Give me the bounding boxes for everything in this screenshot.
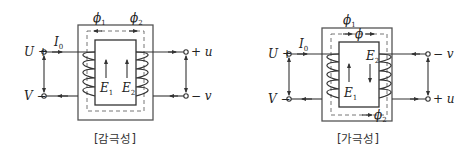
terminal-u-label: + u xyxy=(191,45,213,59)
current-label: I0 xyxy=(53,35,63,51)
terminal-V-label: V − xyxy=(24,89,47,103)
emf2-label: E2 xyxy=(121,81,135,97)
terminal-v xyxy=(426,52,430,56)
terminal-V-label: V − xyxy=(268,92,291,106)
terminal-u xyxy=(184,50,188,54)
primary-winding xyxy=(83,52,95,96)
flux1-label: ϕ1 xyxy=(343,13,356,29)
terminal-u xyxy=(426,97,430,101)
transformer-polarity-diagrams: ϕ1 ϕ2 U + V − I0 + u − v E1 xyxy=(0,0,470,155)
terminal-U-label: U + xyxy=(24,45,48,59)
secondary-winding xyxy=(379,54,391,98)
current-label: I0 xyxy=(298,37,308,53)
subtractive-polarity-diagram: ϕ1 ϕ2 U + V − I0 + u − v E1 xyxy=(24,11,213,146)
terminal-v-label: − v xyxy=(191,89,212,103)
additive-polarity-diagram: ϕ1 ϕ ϕ2 U + V − I0 − v + u xyxy=(268,13,455,146)
flux2-label: ϕ2 xyxy=(374,108,387,124)
terminal-u-label: + u xyxy=(433,92,455,106)
primary-winding xyxy=(327,54,339,98)
flux2-label: ϕ2 xyxy=(130,11,143,27)
emf1-label: E1 xyxy=(343,86,357,102)
emf1-label: E1 xyxy=(99,81,113,97)
caption-subtractive: [감극성] xyxy=(94,132,136,146)
terminal-v xyxy=(184,94,188,98)
flux-label: ϕ xyxy=(355,27,363,41)
core-outer xyxy=(78,25,153,120)
terminal-U-label: U + xyxy=(268,47,292,61)
caption-additive: [가극성] xyxy=(337,132,379,146)
terminal-v-label: − v xyxy=(433,47,454,61)
emf2-label: E2 xyxy=(365,49,379,65)
flux1-label: ϕ1 xyxy=(93,11,106,27)
secondary-winding xyxy=(136,52,148,96)
